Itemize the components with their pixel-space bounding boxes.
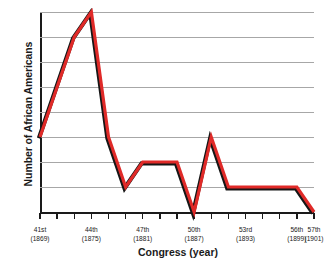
x-tick-mark — [211, 213, 212, 219]
x-tick-mark — [159, 213, 160, 219]
x-tick-mark — [313, 213, 314, 219]
x-tick-label: 47th(1881) — [120, 226, 166, 243]
x-tick-year: (1893) — [223, 235, 269, 244]
x-tick-label: 44th(1875) — [68, 226, 114, 243]
x-tick-mark — [262, 213, 263, 219]
x-tick-mark — [74, 213, 75, 219]
plot-area: 012345678 41st(1869)44th(1875)47th(1881)… — [40, 12, 314, 212]
x-tick-congress: 47th — [136, 226, 149, 233]
x-tick-label: 53rd(1893) — [223, 226, 269, 243]
x-tick-mark — [245, 213, 246, 219]
x-tick-congress: 50th — [188, 226, 201, 233]
x-tick-mark — [125, 213, 126, 219]
x-tick-congress: 44th — [85, 226, 98, 233]
x-tick-mark — [228, 213, 229, 219]
x-tick-mark — [296, 213, 297, 219]
x-tick-mark — [91, 213, 92, 219]
x-tick-year: (1881) — [120, 235, 166, 244]
x-tick-mark — [176, 213, 177, 219]
x-tick-mark — [142, 213, 143, 219]
y-axis-title: Number of African Americans — [22, 19, 34, 209]
x-axis-title: Congress (year) — [40, 246, 316, 258]
x-tick-year: (1887) — [171, 235, 217, 244]
x-tick-year: (1875) — [68, 235, 114, 244]
x-tick-mark — [39, 213, 40, 219]
x-tick-label: 50th(1887) — [171, 226, 217, 243]
data-series-line — [40, 12, 314, 213]
x-tick-year: (1869) — [17, 235, 63, 244]
x-tick-congress: 57th — [308, 226, 321, 233]
x-tick-mark — [108, 213, 109, 219]
x-tick-mark — [56, 213, 57, 219]
x-tick-congress: 41st — [34, 226, 46, 233]
x-tick-year: (1901) — [291, 235, 328, 244]
x-tick-label: 41st(1869) — [17, 226, 63, 243]
x-tick-congress: 53rd — [239, 226, 252, 233]
x-tick-mark — [279, 213, 280, 219]
x-tick-label: 57th(1901) — [291, 226, 328, 243]
